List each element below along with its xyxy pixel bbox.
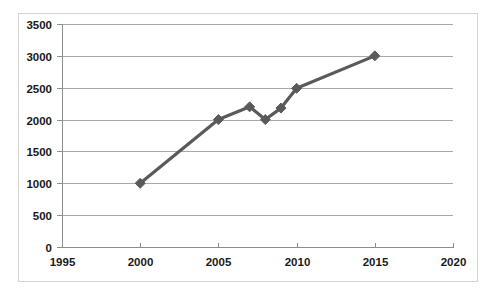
x-tick-label-2015: 2015 — [363, 256, 389, 268]
y-tick-label-3500: 3500 — [26, 19, 52, 31]
chart-plot-area-frame: 0500100015002000250030003500 19952000200… — [18, 13, 478, 282]
data-point-markers — [135, 51, 380, 188]
x-tick-label-2005: 2005 — [206, 256, 232, 268]
series-line-series-1 — [140, 56, 375, 183]
y-tick-label-0: 0 — [46, 242, 52, 254]
y-tick-label-2000: 2000 — [26, 115, 52, 127]
y-axis-tickmarks — [57, 25, 62, 248]
data-series-group — [140, 56, 375, 183]
x-axis-tick-labels: 199520002005201020152020 — [50, 256, 467, 268]
y-tick-label-1000: 1000 — [26, 178, 52, 190]
y-tick-label-500: 500 — [33, 210, 52, 222]
x-axis-tickmarks — [63, 243, 454, 248]
x-tick-label-2000: 2000 — [128, 256, 154, 268]
y-axis-tick-labels: 0500100015002000250030003500 — [26, 19, 52, 254]
y-tick-label-1500: 1500 — [26, 146, 52, 158]
x-tick-label-1995: 1995 — [50, 256, 76, 268]
axes-group — [62, 24, 453, 248]
data-point-marker — [370, 51, 380, 61]
line-chart-svg: 0500100015002000250030003500 19952000200… — [19, 14, 477, 281]
chart-root: 0500100015002000250030003500 19952000200… — [0, 0, 496, 297]
y-tick-label-2500: 2500 — [26, 83, 52, 95]
x-tick-label-2010: 2010 — [285, 256, 311, 268]
x-tick-label-2020: 2020 — [441, 256, 467, 268]
y-tick-label-3000: 3000 — [26, 51, 52, 63]
gridlines-group — [62, 25, 453, 216]
